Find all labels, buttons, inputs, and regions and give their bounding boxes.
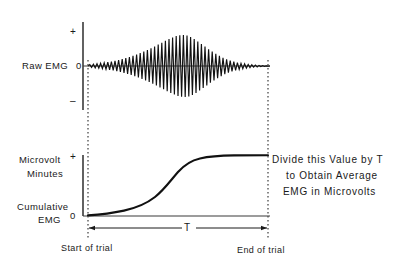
cumulative-label: Cumulative bbox=[17, 202, 69, 212]
start-of-trial-label: Start of trial bbox=[61, 244, 113, 253]
cumulative-emg-label: EMG bbox=[38, 215, 61, 225]
raw-emg-label: Raw EMG bbox=[22, 61, 68, 71]
annotation-line-1: Divide this Value by T bbox=[272, 155, 383, 165]
raw-emg-zero-tick: 0 bbox=[76, 61, 82, 71]
duration-label: T bbox=[184, 223, 191, 233]
cumulative-plus-tick: + bbox=[70, 152, 76, 162]
microvolt-label: Microvolt bbox=[19, 155, 61, 165]
cumulative-zero-tick: 0 bbox=[70, 211, 76, 221]
cumulative-emg-trace bbox=[88, 155, 268, 215]
figure-canvas bbox=[0, 0, 399, 274]
emg-figure: Raw EMG 0 + – Microvolt Minutes Cumulati… bbox=[0, 0, 399, 274]
annotation-line-2: to Obtain Average bbox=[286, 171, 378, 181]
raw-emg-minus-tick: – bbox=[70, 96, 76, 106]
minutes-label: Minutes bbox=[27, 169, 63, 179]
annotation-line-3: EMG in Microvolts bbox=[283, 187, 376, 197]
bottom-panel-axes bbox=[83, 155, 270, 216]
end-of-trial-label: End of trial bbox=[237, 246, 285, 255]
raw-emg-plus-tick: + bbox=[70, 27, 76, 37]
